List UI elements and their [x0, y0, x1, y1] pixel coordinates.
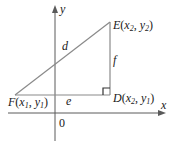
right-angle-marker: [103, 88, 110, 95]
origin-label: 0: [59, 116, 65, 130]
side-d-label: d: [62, 39, 69, 53]
side-e-label: e: [66, 94, 72, 108]
point-e-label: E(x2, y2): [112, 18, 153, 33]
y-axis-label: y: [59, 2, 66, 16]
side-d-hypotenuse: [15, 22, 110, 95]
y-axis-arrow-icon: [52, 5, 58, 13]
point-f-label: F(x1, y1): [7, 95, 48, 110]
diagram-canvas: y x 0 d f e E(x2, y2) D(x2, y1) F(x1, y1…: [0, 0, 172, 148]
point-d-label: D(x2, y1): [112, 91, 154, 106]
x-axis-label: x: [160, 98, 167, 112]
side-f-label: f: [113, 53, 118, 67]
triangle: [15, 22, 110, 95]
